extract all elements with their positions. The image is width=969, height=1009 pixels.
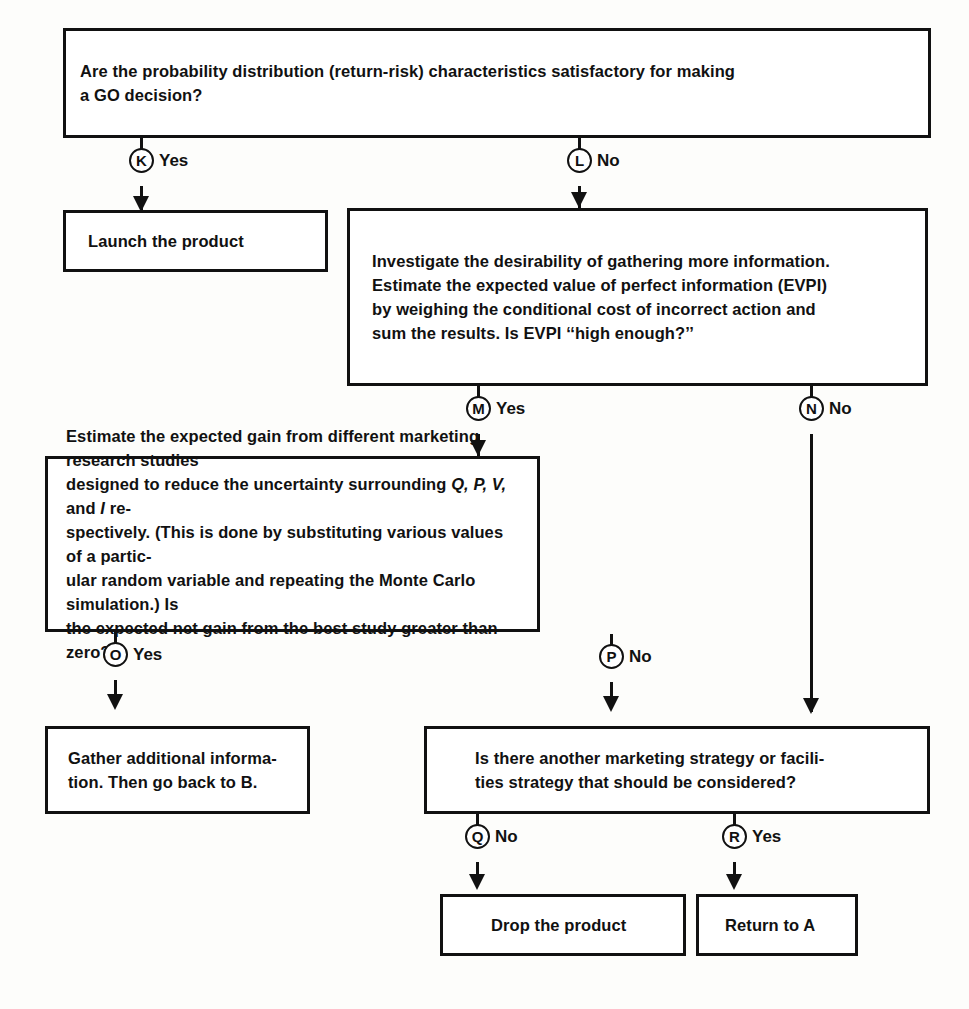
estimate-vars-qpv: Q, P, V, <box>451 475 506 493</box>
connector-node-q: Q No <box>465 824 518 849</box>
connector-letter-p: P <box>599 644 624 669</box>
connector-label-p: No <box>629 647 652 667</box>
arrowhead-n <box>803 698 819 714</box>
flowchart-canvas: Are the probability distribution (return… <box>0 0 969 1009</box>
box-return-to-a: Return to A <box>696 894 858 956</box>
estimate-line-3: spectively. (This is done by substitutin… <box>66 523 503 565</box>
box-another-strategy-question: Is there another marketing strategy or f… <box>424 726 930 814</box>
box-distribution-question: Are the probability distribution (return… <box>63 28 931 138</box>
connector-letter-r: R <box>722 824 747 849</box>
connector-label-o: Yes <box>133 645 162 665</box>
connector-label-l: No <box>597 151 620 171</box>
connector-letter-l: L <box>567 148 592 173</box>
box-another-strategy-question-text: Is there another marketing strategy or f… <box>427 746 927 794</box>
connector-label-n: No <box>829 399 852 419</box>
box-return-to-a-text: Return to A <box>699 913 855 937</box>
connector-label-r: Yes <box>752 827 781 847</box>
estimate-line-2a: designed to reduce the uncertainty surro… <box>66 475 451 493</box>
arrowhead-p <box>603 696 619 712</box>
connector-node-p: P No <box>599 644 652 669</box>
arrowhead-l <box>571 192 587 208</box>
box-launch-product: Launch the product <box>63 210 328 272</box>
estimate-line-4: ular random variable and repeating the M… <box>66 571 475 613</box>
connector-node-l: L No <box>567 148 620 173</box>
estimate-line-2b: and <box>66 499 100 517</box>
arrowhead-r <box>726 874 742 890</box>
connector-letter-o: O <box>103 642 128 667</box>
connector-label-k: Yes <box>159 151 188 171</box>
connector-label-q: No <box>495 827 518 847</box>
box-investigate-evpi: Investigate the desirability of gatherin… <box>347 208 928 386</box>
connector-letter-q: Q <box>465 824 490 849</box>
box-estimate-expected-gain-text: Estimate the expected gain from differen… <box>48 424 537 664</box>
connector-node-m: M Yes <box>466 396 525 421</box>
box-gather-additional-information: Gather additional informa- tion. Then go… <box>45 726 310 814</box>
box-drop-product-text: Drop the product <box>443 913 683 937</box>
box-investigate-evpi-text: Investigate the desirability of gatherin… <box>350 249 925 345</box>
connector-letter-n: N <box>799 396 824 421</box>
connector-letter-m: M <box>466 396 491 421</box>
connector-line-n-bottom <box>810 434 813 712</box>
connector-label-m: Yes <box>496 399 525 419</box>
connector-node-r: R Yes <box>722 824 781 849</box>
estimate-line-2c: re- <box>105 499 131 517</box>
arrowhead-o <box>107 694 123 710</box>
box-distribution-question-text: Are the probability distribution (return… <box>66 59 928 107</box>
box-launch-product-text: Launch the product <box>66 229 325 253</box>
box-estimate-expected-gain: Estimate the expected gain from differen… <box>45 456 540 632</box>
estimate-line-1: Estimate the expected gain from differen… <box>66 427 479 469</box>
box-drop-product: Drop the product <box>440 894 686 956</box>
connector-node-n: N No <box>799 396 852 421</box>
arrowhead-q <box>469 874 485 890</box>
box-gather-additional-information-text: Gather additional informa- tion. Then go… <box>48 746 307 794</box>
connector-letter-k: K <box>129 148 154 173</box>
connector-node-k: K Yes <box>129 148 188 173</box>
connector-node-o: O Yes <box>103 642 162 667</box>
